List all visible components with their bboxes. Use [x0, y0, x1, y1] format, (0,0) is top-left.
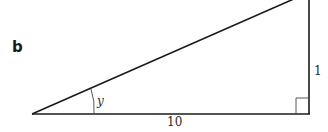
side-label-opposite: 1: [314, 64, 322, 78]
hypotenuse: [32, 0, 296, 114]
angle-arc: [91, 89, 94, 114]
right-angle-marker: [296, 98, 309, 114]
right-triangle-diagram: [0, 0, 328, 132]
angle-label-y: y: [97, 94, 104, 108]
side-label-adjacent: 10: [167, 115, 182, 129]
